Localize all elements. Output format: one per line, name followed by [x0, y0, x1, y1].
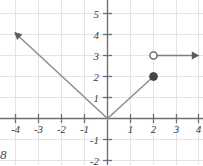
- y-tick-label: 2: [94, 71, 100, 83]
- y-tick-label: 5: [94, 8, 100, 20]
- open-endpoint-marker: [150, 52, 157, 59]
- y-tick-label: 1: [94, 92, 100, 104]
- x-axis-tick-labels: -4 -3 -2 -1 1 2 3 4: [11, 123, 202, 135]
- x-tick-label: 4: [196, 123, 202, 135]
- y-tick-label: -2: [90, 155, 100, 166]
- closed-endpoint-marker: [150, 73, 158, 81]
- absolute-value-branch: [19, 37, 154, 119]
- grid-lines: [0, 0, 203, 165]
- x-tick-label: 3: [173, 123, 180, 135]
- axes: [0, 0, 203, 165]
- y-tick-label: 4: [94, 29, 100, 41]
- x-tick-label: -1: [80, 123, 89, 135]
- y-tick-label: 3: [93, 50, 100, 62]
- y-axis-tick-labels: 5 4 3 2 1 -1 -2: [90, 8, 100, 166]
- graph-figure: -4 -3 -2 -1 1 2 3 4 5 4 3 2 1 -1 -2 8: [0, 0, 203, 165]
- y-tick-label: -1: [90, 134, 99, 146]
- x-tick-label: 1: [128, 123, 134, 135]
- coordinate-plane-graph: -4 -3 -2 -1 1 2 3 4 5 4 3 2 1 -1 -2: [0, 0, 203, 165]
- x-tick-label: -2: [57, 123, 67, 135]
- page-number: 8: [0, 148, 7, 161]
- plotted-curves: [19, 37, 193, 119]
- x-tick-label: 2: [151, 123, 157, 135]
- x-tick-label: -4: [11, 123, 21, 135]
- x-tick-label: -3: [34, 123, 44, 135]
